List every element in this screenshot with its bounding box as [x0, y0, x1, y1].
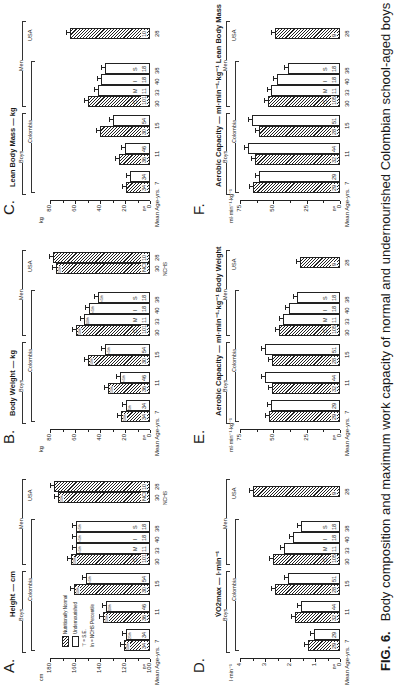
error-bar — [280, 548, 284, 549]
legend-item-pct: In = NCHS Percentile — [90, 595, 95, 647]
error-bar — [66, 33, 70, 34]
age-label: 30 — [154, 329, 160, 336]
error-bar — [80, 319, 84, 320]
age-label: 15 — [344, 122, 350, 129]
n-label: 29 — [331, 413, 337, 421]
n-equals-label: n= — [332, 664, 337, 669]
percentile-label: <5th — [78, 524, 82, 531]
error-bar — [289, 537, 293, 538]
y-tick — [100, 659, 101, 662]
bar-boys-7-u — [259, 171, 340, 182]
age-label: 30 — [154, 100, 160, 107]
group-label-colombia: Colombia — [231, 349, 237, 372]
error-bar — [261, 349, 265, 350]
group-label-men: Men — [18, 518, 24, 529]
group-label-colombia: Colombia — [27, 120, 33, 143]
n-label: 18 — [141, 65, 147, 73]
n-label: 32 — [331, 385, 337, 393]
percentile-label: 50th — [58, 266, 62, 273]
y-tick — [240, 430, 241, 433]
bar-boys-7-n — [253, 182, 340, 193]
y-tick — [75, 430, 76, 433]
n-label: 30 — [141, 586, 147, 594]
group-label-usa: USA — [27, 30, 33, 41]
error-bar — [255, 131, 259, 132]
chart-panel-5: E.Aerobic Capacity — ml·min⁻¹·kg⁻¹ Body … — [190, 229, 368, 458]
men-class-label: C — [132, 100, 138, 104]
bar-boys-15-n — [259, 126, 340, 137]
age-label: 15 — [154, 580, 160, 587]
men-class-label: S — [322, 296, 328, 300]
bar-boys-11-n — [272, 383, 340, 394]
age-label: 7 — [154, 640, 160, 643]
error-bar — [101, 349, 105, 350]
n-label: 29 — [331, 184, 337, 192]
group-label-usa: USA — [231, 259, 237, 270]
error-bar — [84, 101, 88, 102]
y-tick-label: 60 — [71, 205, 77, 223]
percentile-label: 10th — [86, 317, 90, 324]
n-label: 11 — [331, 545, 337, 553]
n-equals-label: n= — [142, 206, 147, 211]
age-label: 15 — [154, 351, 160, 358]
n-label: 36 — [141, 156, 147, 164]
n-label: 51 — [331, 346, 337, 354]
age-label: 33 — [154, 318, 160, 325]
y-minor-tick — [113, 659, 114, 661]
y-tick — [273, 201, 274, 204]
group-label-men: Men — [18, 60, 24, 71]
error-bar — [249, 187, 253, 188]
n-label: 54 — [141, 575, 147, 583]
error-bar — [297, 606, 301, 607]
error-bar — [284, 578, 288, 579]
percentile-label: <5th — [78, 546, 82, 553]
n-label: 10 — [141, 254, 147, 262]
bar-usa-nchs-30 — [58, 492, 151, 503]
y-tick-label: 75 — [236, 434, 242, 452]
group-label-men: Men — [222, 60, 228, 71]
x-axis-label: Mean Age-yrs. — [154, 188, 160, 227]
y-minor-tick — [323, 201, 324, 203]
legend-item-under: Undernourished — [72, 595, 79, 647]
men-class-label: S — [132, 525, 138, 529]
x-axis-label: Mean Age-yrs. — [344, 417, 350, 456]
legend-label: ⊤ = S.E. — [82, 629, 87, 647]
n-label: 18 — [331, 76, 337, 84]
y-tick — [307, 201, 308, 204]
y-tick-label: 2 — [286, 663, 292, 681]
n-label: 54 — [141, 117, 147, 125]
n-label: 105 — [331, 324, 337, 335]
bar-usa-nchs-30 — [56, 263, 150, 274]
error-bar — [94, 297, 98, 298]
error-bar — [244, 148, 248, 149]
y-axis-unit: cm — [38, 674, 44, 681]
panel-label: A. — [0, 659, 17, 673]
n-label: 44 — [331, 603, 337, 611]
y-minor-tick — [88, 430, 89, 432]
percentile-label: <5th — [100, 295, 104, 302]
bar-men-m-33 — [76, 543, 150, 554]
y-axis-unit: kg — [38, 217, 44, 223]
n-label: 11 — [331, 87, 337, 95]
n-label: 29 — [331, 402, 337, 410]
n-equals-label: n= — [332, 206, 337, 211]
caption-text: Body composition and maximum work capaci… — [378, 0, 393, 621]
error-bar — [54, 497, 58, 498]
error-bar — [109, 120, 113, 121]
y-tick — [100, 430, 101, 433]
error-bar — [126, 176, 130, 177]
y-tick-label: 140 — [96, 663, 102, 681]
n-label: 28 — [331, 586, 337, 594]
error-bar — [72, 330, 76, 331]
error-bar — [268, 360, 272, 361]
error-bar — [72, 537, 76, 538]
age-label: 28 — [344, 488, 350, 495]
group-label-men: Men — [18, 289, 24, 300]
group-label-colombia: Colombia — [27, 349, 33, 372]
group-label-boys: Boys — [222, 609, 228, 621]
percentile-label: 50th — [78, 328, 82, 335]
y-tick-label: 50 — [269, 434, 275, 452]
error-bar — [304, 645, 308, 646]
bar-boys-7-u — [271, 400, 340, 411]
percentile-label: 25th — [128, 632, 132, 639]
